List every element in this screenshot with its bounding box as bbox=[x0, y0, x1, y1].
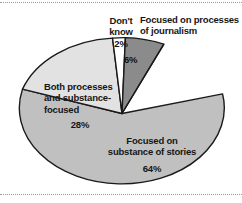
slice-label-substance: Focused on substance of stories 64% bbox=[104, 124, 200, 185]
pie-chart-figure: Don't know 2% Focused on processes of jo… bbox=[0, 0, 242, 203]
chart-plot-area: Don't know 2% Focused on processes of jo… bbox=[0, 0, 242, 203]
slice-label-dontknow-text: Don't know bbox=[109, 15, 132, 37]
slice-value-dontknow: 2% bbox=[95, 38, 147, 49]
slice-value-substance: 64% bbox=[104, 163, 200, 174]
slice-label-both-text: Both processes and substance- focused bbox=[44, 81, 112, 114]
slice-label-journalism: Focused on processes of journalism bbox=[140, 14, 240, 36]
slice-label-substance-text: Focused on substance of stories bbox=[108, 135, 196, 157]
slice-value-journalism: 6% bbox=[124, 54, 150, 65]
